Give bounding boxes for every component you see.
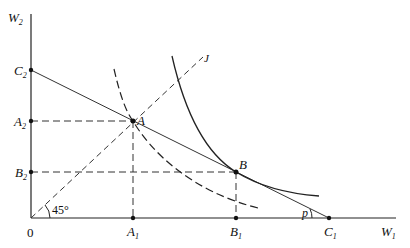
budget-line bbox=[31, 70, 329, 218]
y-axis-label: W2 bbox=[8, 10, 23, 27]
point-A bbox=[131, 119, 136, 124]
point-B2 bbox=[29, 170, 33, 174]
point-B1 bbox=[234, 216, 238, 220]
label-C1: C1 bbox=[324, 224, 337, 241]
point-B bbox=[234, 170, 239, 175]
label-B2: B2 bbox=[15, 165, 27, 182]
angle-45-arc bbox=[45, 205, 50, 218]
welfare-diagram: W2 W1 0 C2 A2 B2 A1 B1 C1 A B J 45° p bbox=[0, 0, 410, 248]
label-45-degree: 45° bbox=[52, 203, 69, 217]
price-angle-arc bbox=[310, 209, 312, 218]
indifference-curve-solid bbox=[172, 56, 319, 196]
point-C1 bbox=[327, 216, 331, 220]
point-A1 bbox=[131, 216, 135, 220]
indifference-curve-dashed bbox=[114, 69, 262, 209]
point-A2 bbox=[29, 119, 33, 123]
label-J: J bbox=[204, 52, 210, 64]
label-A2: A2 bbox=[13, 114, 26, 131]
origin-label: 0 bbox=[27, 225, 34, 240]
label-price-angle: p bbox=[301, 206, 308, 220]
label-A: A bbox=[136, 113, 145, 128]
label-B1: B1 bbox=[230, 224, 242, 241]
label-C2: C2 bbox=[14, 63, 27, 80]
point-C2 bbox=[29, 68, 33, 72]
label-B: B bbox=[239, 157, 247, 172]
label-A1: A1 bbox=[126, 224, 139, 241]
x-axis-label: W1 bbox=[381, 224, 396, 241]
